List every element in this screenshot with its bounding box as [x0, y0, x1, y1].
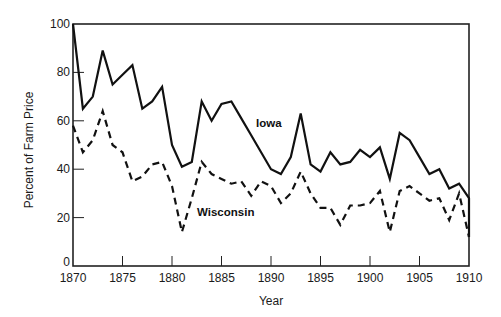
- series-wisconsin-line: [73, 111, 469, 237]
- series-wisconsin-label: Wisconsin: [197, 206, 254, 218]
- x-tick-label: 1900: [357, 271, 384, 285]
- plot-frame: [73, 24, 469, 266]
- y-axis-title: Percent of Farm Price: [22, 91, 36, 208]
- x-tick-label: 1890: [258, 271, 285, 285]
- x-tick-label: 1885: [208, 271, 235, 285]
- x-tick-label: 1870: [60, 271, 87, 285]
- series-iowa-label: Iowa: [256, 117, 282, 129]
- x-tick-label: 1875: [109, 271, 136, 285]
- x-tick-label: 1880: [159, 271, 186, 285]
- y-tick-label: 40: [57, 162, 71, 176]
- y-tick-label: 0: [63, 255, 70, 269]
- axes: 1870187518801885189018951900190519100204…: [50, 17, 483, 285]
- series-layer: [73, 24, 469, 237]
- y-tick-label: 60: [57, 114, 71, 128]
- series-iowa-line: [73, 24, 469, 237]
- y-tick-label: 20: [57, 211, 71, 225]
- x-tick-label: 1895: [307, 271, 334, 285]
- y-tick-label: 100: [50, 17, 70, 31]
- line-chart: 1870187518801885189018951900190519100204…: [0, 0, 501, 317]
- x-tick-label: 1905: [406, 271, 433, 285]
- x-axis-title: Year: [259, 294, 283, 308]
- x-tick-label: 1910: [456, 271, 483, 285]
- y-tick-label: 80: [57, 65, 71, 79]
